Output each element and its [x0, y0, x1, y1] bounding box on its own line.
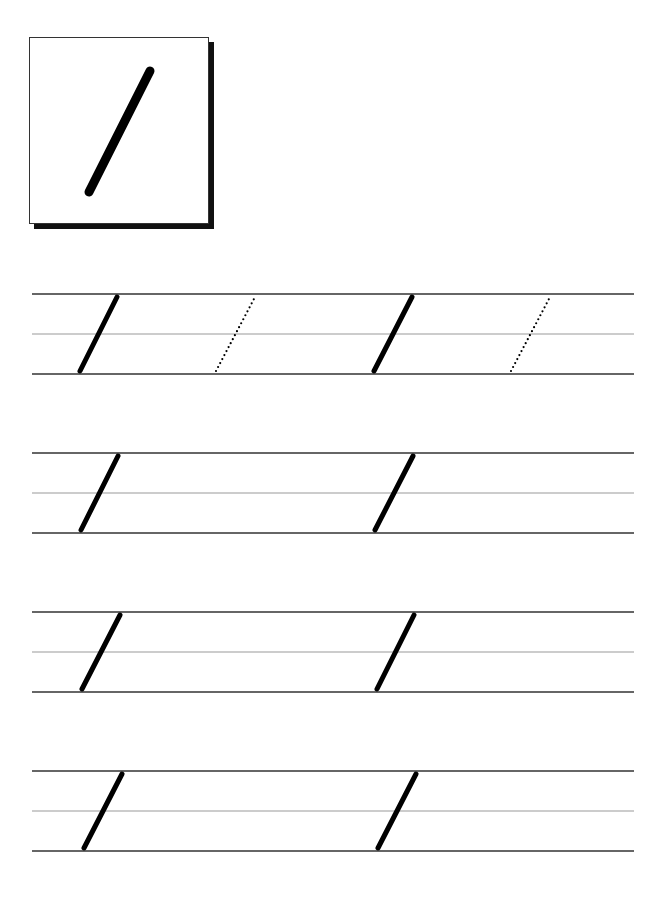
practice-lines-area	[0, 0, 666, 901]
practice-row	[32, 771, 634, 851]
practice-row	[32, 294, 634, 374]
practice-row	[32, 612, 634, 692]
practice-row	[32, 453, 634, 533]
